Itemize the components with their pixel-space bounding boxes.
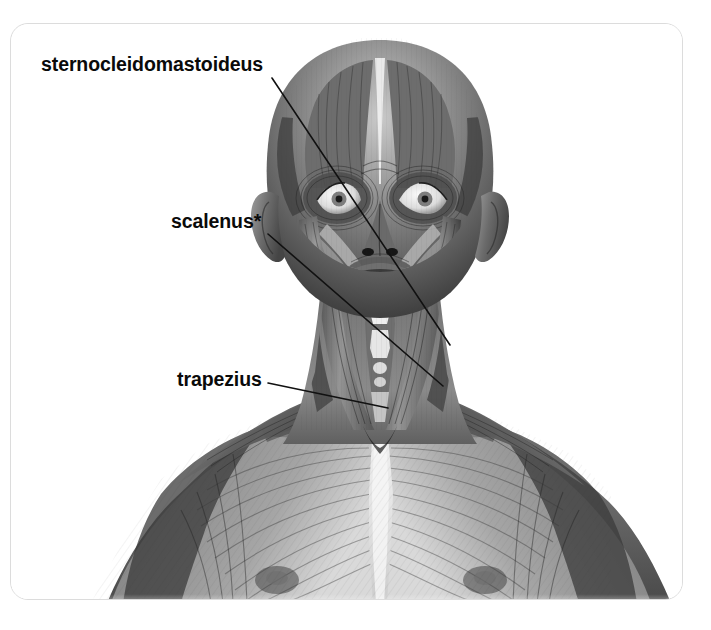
label-trapezius: trapezius <box>177 370 262 390</box>
figure-canvas: sternocleidomastoideus scalenus* trapezi… <box>0 0 711 630</box>
anatomy-illustration <box>11 24 683 600</box>
label-sternocleidomastoideus: sternocleidomastoideus <box>41 55 263 75</box>
anatomy-artwork <box>11 24 683 600</box>
figure-card <box>10 23 683 600</box>
label-scalenus: scalenus* <box>171 212 261 232</box>
